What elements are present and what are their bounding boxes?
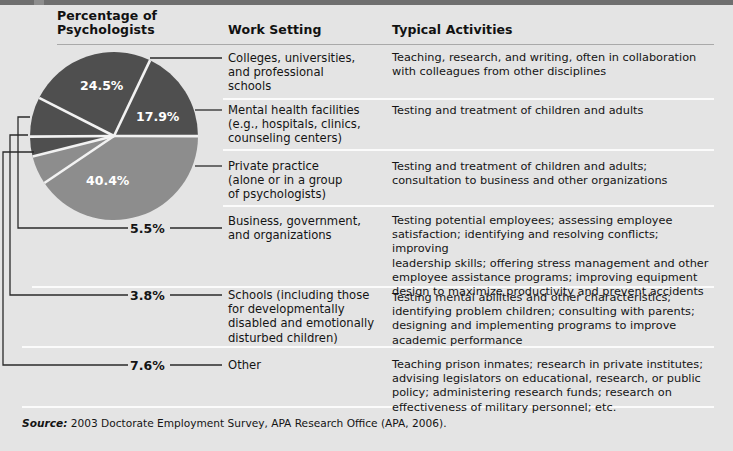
setting-line: (alone or in a group bbox=[228, 173, 380, 187]
row-divider-2 bbox=[223, 149, 714, 151]
pie-label-40-4: 40.4% bbox=[86, 173, 130, 188]
typical-activities-row-5: Testing mental abilities and other chara… bbox=[392, 291, 710, 348]
pie-label-17-9: 17.9% bbox=[136, 109, 180, 124]
setting-line: (e.g., hospitals, clinics, bbox=[228, 117, 380, 131]
setting-line: schools bbox=[228, 79, 380, 93]
activity-line: Teaching prison inmates; research in pri… bbox=[392, 358, 710, 372]
setting-line: disturbed children) bbox=[228, 331, 380, 345]
setting-line: Colleges, universities, bbox=[228, 51, 380, 65]
setting-line: Mental health facilities bbox=[228, 103, 380, 117]
work-setting-row-5: Schools (including those for development… bbox=[228, 288, 380, 345]
top-page-band bbox=[0, 0, 733, 5]
row-divider-3 bbox=[223, 205, 714, 207]
column-header-percentage-line2: Psychologists bbox=[57, 23, 157, 37]
typical-activities-row-2: Testing and treatment of children and ad… bbox=[392, 104, 710, 118]
activity-line: designing and implementing programs to i… bbox=[392, 319, 710, 333]
activity-line: employee assistance programs; improving … bbox=[392, 271, 710, 285]
activity-line: Testing mental abilities and other chara… bbox=[392, 291, 710, 305]
setting-line: disabled and emotionally bbox=[228, 316, 380, 330]
activity-line: satisfaction; identifying and resolving … bbox=[392, 228, 710, 256]
pie-outside-label-7-6: 7.6% bbox=[130, 358, 165, 373]
setting-line: counseling centers) bbox=[228, 131, 380, 145]
activity-line: Testing and treatment of children and ad… bbox=[392, 160, 710, 174]
column-header-work-setting: Work Setting bbox=[228, 23, 322, 37]
activity-line: effectiveness of military personnel; etc… bbox=[392, 401, 710, 415]
activity-line: Testing and treatment of children and ad… bbox=[392, 104, 710, 118]
source-note: Source: 2003 Doctorate Employment Survey… bbox=[22, 417, 447, 429]
header-rule bbox=[57, 44, 714, 45]
typical-activities-row-4: Testing potential employees; assessing e… bbox=[392, 214, 710, 299]
setting-line: Other bbox=[228, 358, 380, 372]
typical-activities-row-6: Teaching prison inmates; research in pri… bbox=[392, 358, 710, 415]
column-header-percentage: Percentage of Psychologists bbox=[57, 9, 157, 37]
setting-line: Business, government, bbox=[228, 214, 380, 228]
work-setting-row-1: Colleges, universities, and professional… bbox=[228, 51, 380, 94]
setting-line: and organizations bbox=[228, 228, 380, 242]
pie-outside-label-3-8: 3.8% bbox=[130, 288, 165, 303]
column-header-typical-activities: Typical Activities bbox=[392, 23, 513, 37]
activity-line: advising legislators on educational, res… bbox=[392, 372, 710, 386]
activity-line: Testing potential employees; assessing e… bbox=[392, 214, 710, 228]
setting-line: of psychologists) bbox=[228, 187, 380, 201]
setting-line: Schools (including those bbox=[228, 288, 380, 302]
row-divider-1 bbox=[223, 98, 714, 100]
typical-activities-row-1: Teaching, research, and writing, often i… bbox=[392, 51, 710, 79]
source-label: Source: bbox=[22, 417, 67, 429]
activity-line: leadership skills; offering stress manag… bbox=[392, 257, 710, 271]
source-text: 2003 Doctorate Employment Survey, APA Re… bbox=[71, 417, 447, 429]
activity-line: Teaching, research, and writing, often i… bbox=[392, 51, 710, 65]
work-setting-row-3: Private practice (alone or in a group of… bbox=[228, 159, 380, 202]
activity-line: with colleagues from other disciplines bbox=[392, 65, 710, 79]
typical-activities-row-3: Testing and treatment of children and ad… bbox=[392, 160, 710, 188]
pie-chart: 24.5% 17.9% 40.4% bbox=[28, 50, 200, 222]
activity-line: academic performance bbox=[392, 334, 710, 348]
setting-line: Private practice bbox=[228, 159, 380, 173]
setting-line: and professional bbox=[228, 65, 380, 79]
activity-line: identifying problem children; consulting… bbox=[392, 305, 710, 319]
work-setting-row-2: Mental health facilities (e.g., hospital… bbox=[228, 103, 380, 146]
pie-chart-svg: 24.5% 17.9% 40.4% bbox=[28, 50, 200, 222]
column-header-percentage-line1: Percentage of bbox=[57, 9, 157, 23]
activity-line: policy; administering research funds; re… bbox=[392, 386, 710, 400]
activity-line: consultation to business and other organ… bbox=[392, 174, 710, 188]
pie-outside-label-5-5: 5.5% bbox=[130, 221, 165, 236]
setting-line: for developmentally bbox=[228, 302, 380, 316]
pie-label-24-5: 24.5% bbox=[80, 78, 124, 93]
work-setting-row-4: Business, government, and organizations bbox=[228, 214, 380, 242]
work-setting-row-6: Other bbox=[228, 358, 380, 372]
figure-panel: Percentage of Psychologists Work Setting… bbox=[0, 0, 733, 451]
